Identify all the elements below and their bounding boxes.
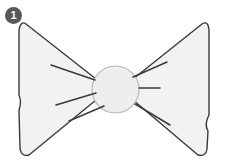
bow-illustration: [0, 0, 228, 168]
bow-center-knot: [92, 66, 139, 113]
step-number-badge: 1: [5, 7, 22, 24]
